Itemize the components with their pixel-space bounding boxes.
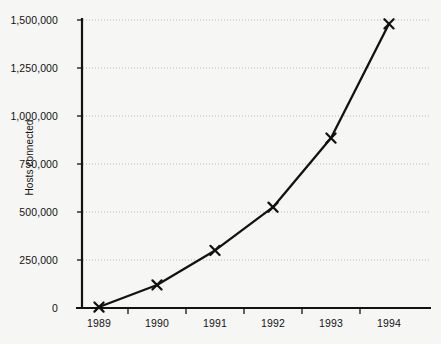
data-series-line (99, 24, 389, 307)
data-point-marker (326, 133, 335, 142)
data-point-marker (210, 246, 219, 255)
gridlines (83, 20, 430, 260)
data-point-markers (94, 19, 393, 311)
plot-area (0, 0, 441, 344)
data-point-marker (268, 203, 277, 212)
line-chart: Hosts connected 0250,000500,000750,0001,… (0, 0, 441, 344)
data-point-marker (384, 19, 393, 28)
